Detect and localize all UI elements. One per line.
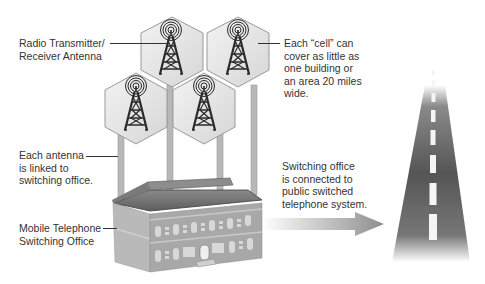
switching-office-building-icon [112, 178, 262, 272]
antenna-leader-line [110, 43, 170, 44]
office-leader-line [103, 228, 117, 229]
link-leader-line [86, 156, 118, 157]
cell-coverage-label: Each “cell” can cover as little as one b… [284, 37, 362, 100]
highway-icon [392, 70, 470, 262]
switching-office-label: Mobile Telephone Switching Office [19, 222, 101, 247]
pstn-connection-label: Switching office is connected to public … [282, 160, 367, 210]
antenna-label: Radio Transmitter/ Receiver Antenna [19, 37, 105, 62]
antenna-link-label: Each antenna is linked to switching offi… [19, 149, 93, 187]
cell-leader-line [258, 43, 280, 44]
right-arrow-icon [262, 212, 384, 236]
